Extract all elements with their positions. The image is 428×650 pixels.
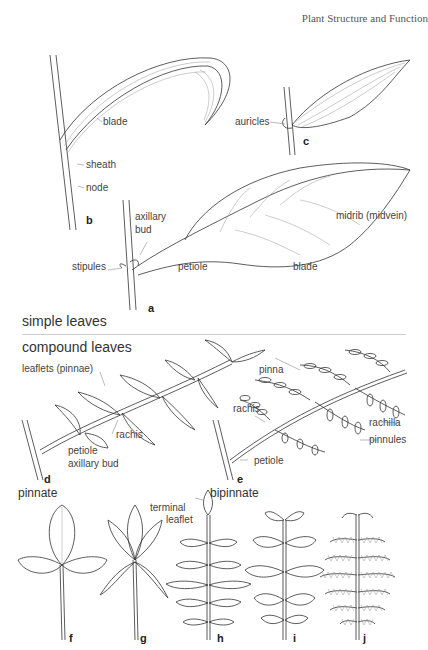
section-title-compound: compound leaves [22,340,132,354]
label-d-petiole: petiole [68,446,97,456]
label-d-rachis: rachis [116,430,143,440]
label-b-node: node [86,183,108,193]
label-d-leaflets: leaflets (pinnae) [22,364,93,374]
label-h-leaflet: leaflet [166,515,193,525]
figure-letter-h: h [217,633,224,644]
figure-letter-c: c [303,136,309,147]
figure-c-drawing [270,60,410,155]
figure-letter-d: d [44,474,51,485]
label-e-rachis: rachis [233,404,260,414]
figure-letter-j: j [363,633,366,644]
caption-pinnate: pinnate [18,487,57,499]
label-e-pinna: pinna [259,365,283,375]
figure-e-drawing [213,350,407,481]
label-b-blade: blade [103,117,127,127]
label-a-stipules: stipules [72,262,106,272]
figure-a-drawing [108,163,410,310]
label-c-auricles: auricles [235,117,269,127]
label-a-blade: blade [293,262,317,272]
figure-letter-e: e [237,474,243,485]
label-a-axillary: axillary [135,212,166,222]
label-a-midrib: midrib (midvein) [336,211,407,221]
figure-i-drawing [245,512,324,640]
label-d-axillary-bud: axillary bud [68,459,119,469]
figure-letter-g: g [140,633,147,644]
section-title-simple: simple leaves [22,314,107,328]
figure-d-drawing [22,340,265,480]
figure-b-drawing [50,55,230,230]
label-a-petiole: petiole [178,262,207,272]
figure-letter-i: i [293,633,296,644]
label-e-rachilla: rachilla [369,418,401,428]
label-b-sheath: sheath [86,160,116,170]
figure-f-drawing [18,505,107,640]
figure-letter-a: a [148,303,154,314]
divider [22,334,406,335]
label-e-pinnules: pinnules [369,435,406,445]
figure-letter-b: b [86,215,93,226]
figure-j-drawing [320,513,395,640]
figure-g-drawing [100,505,168,640]
label-e-petiole: petiole [254,456,283,466]
caption-bipinnate: bipinnate [210,487,259,499]
label-h-terminal: terminal [150,503,186,513]
figure-letter-f: f [69,633,73,644]
label-a-bud: bud [135,225,152,235]
